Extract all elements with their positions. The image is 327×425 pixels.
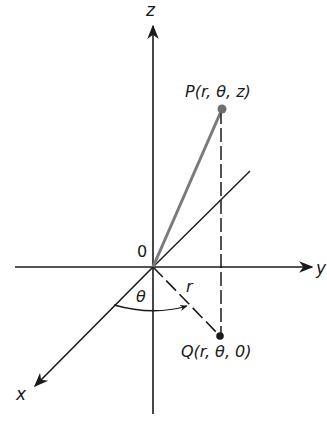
theta-arc (114, 305, 187, 311)
z-axis-label: z (146, 2, 155, 19)
diagram-canvas (0, 0, 327, 425)
y-axis-label: y (316, 260, 326, 277)
point-p-label: P(r, θ, z) (185, 84, 251, 100)
op-segment (153, 109, 222, 267)
angle-label: θ (136, 289, 146, 305)
origin-label: 0 (137, 244, 147, 260)
radius-label: r (186, 279, 193, 295)
point-p-dot (218, 105, 227, 114)
point-q-dot (216, 332, 224, 340)
cylindrical-coordinates-diagram: z y x 0 P(r, θ, z) Q(r, θ, 0) r θ (0, 0, 327, 425)
x-axis-label: x (16, 386, 26, 403)
point-q-label: Q(r, θ, 0) (181, 344, 252, 360)
